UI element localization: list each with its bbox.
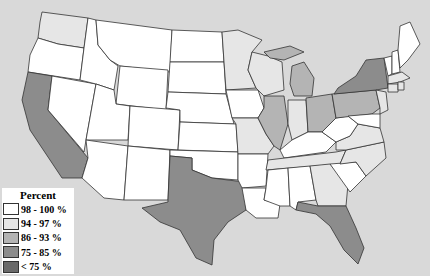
state-nd xyxy=(170,30,224,62)
state-ny xyxy=(334,58,388,94)
legend-swatch xyxy=(3,246,19,258)
state-sd xyxy=(168,62,226,94)
legend-title: Percent xyxy=(2,188,74,202)
map-legend: Percent 98 - 100 % 94 - 97 % 86 - 93 % 7… xyxy=(2,188,74,274)
state-ms xyxy=(264,168,290,206)
state-ri xyxy=(398,82,404,90)
legend-swatch xyxy=(3,232,19,244)
state-ar xyxy=(238,154,268,188)
state-ks xyxy=(178,122,238,152)
state-fl xyxy=(296,202,364,264)
legend-swatch xyxy=(3,203,19,215)
state-mi xyxy=(290,62,314,96)
legend-item: 94 - 97 % xyxy=(2,216,74,230)
state-co xyxy=(128,106,180,150)
legend-label: < 75 % xyxy=(21,261,52,272)
legend-swatch xyxy=(3,218,19,230)
legend-item: < 75 % xyxy=(2,260,74,274)
state-mi-up xyxy=(264,46,304,60)
legend-item: 86 - 93 % xyxy=(2,231,74,245)
legend-item: 75 - 85 % xyxy=(2,245,74,259)
legend-item: 98 - 100 % xyxy=(2,202,74,216)
state-me xyxy=(398,22,420,68)
state-nm xyxy=(124,146,170,200)
state-az xyxy=(82,140,128,200)
legend-label: 86 - 93 % xyxy=(21,232,62,243)
legend-label: 94 - 97 % xyxy=(21,218,62,229)
legend-label: 75 - 85 % xyxy=(21,247,62,258)
legend-swatch xyxy=(3,261,19,273)
state-wy xyxy=(116,66,168,110)
legend-label: 98 - 100 % xyxy=(21,204,67,215)
state-ia xyxy=(226,90,264,118)
state-ct xyxy=(388,84,398,92)
